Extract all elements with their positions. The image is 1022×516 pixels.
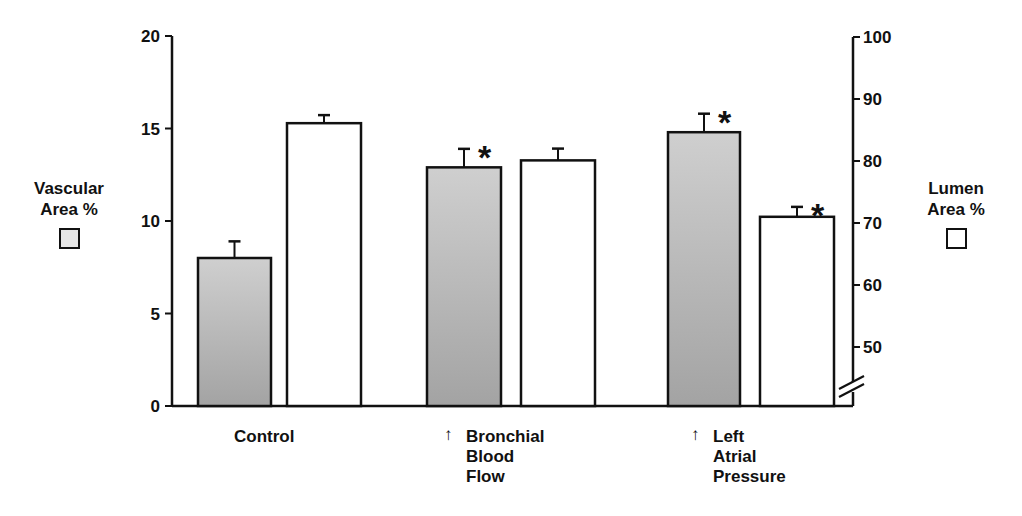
right-axis-title-line1: Lumen bbox=[906, 178, 1006, 199]
right-axis-tick-label: 60 bbox=[863, 276, 882, 295]
category-label-left-atrial-pressure: Left Atrial Pressure bbox=[713, 427, 786, 487]
category-label-line: Atrial bbox=[713, 447, 786, 467]
left-axis-tick-label: 0 bbox=[151, 397, 160, 416]
up-arrow-icon: ↑ bbox=[691, 425, 700, 445]
right-axis-tick-label: 90 bbox=[863, 90, 882, 109]
bars: *** bbox=[198, 103, 834, 406]
category-label-line: Pressure bbox=[713, 467, 786, 487]
left-axis-tick-label: 5 bbox=[151, 305, 160, 324]
legend-swatch-vascular bbox=[59, 228, 80, 249]
category-label-line: Control bbox=[234, 427, 294, 447]
right-axis-tick-label: 100 bbox=[863, 28, 891, 47]
left-axis-tick-label: 10 bbox=[141, 212, 160, 231]
category-label-bronchial-blood-flow: Bronchial Blood Flow bbox=[466, 427, 544, 487]
category-label-line: Bronchial bbox=[466, 427, 544, 447]
right-axis-tick-label: 50 bbox=[863, 338, 882, 357]
right-axis-tick-label: 70 bbox=[863, 214, 882, 233]
bar-vascular-area bbox=[668, 132, 740, 406]
left-axis-title: Vascular Area % bbox=[14, 178, 124, 249]
bar-vascular-area bbox=[427, 167, 501, 406]
category-label-line: Blood bbox=[466, 447, 544, 467]
bar-lumen-area bbox=[521, 160, 595, 406]
significance-asterisk: * bbox=[478, 138, 492, 176]
category-label-line: Left bbox=[713, 427, 786, 447]
category-label-control: Control bbox=[234, 427, 294, 447]
left-axis-title-line1: Vascular bbox=[14, 178, 124, 199]
significance-asterisk: * bbox=[718, 103, 732, 141]
category-label-line: Flow bbox=[466, 467, 544, 487]
up-arrow-icon: ↑ bbox=[444, 425, 453, 445]
left-axis-title-line2: Area % bbox=[14, 199, 124, 220]
right-axis-title-line2: Area % bbox=[906, 199, 1006, 220]
legend-swatch-lumen bbox=[946, 228, 967, 249]
significance-asterisk: * bbox=[811, 196, 825, 234]
right-axis-tick-label: 80 bbox=[863, 152, 882, 171]
right-axis-title: Lumen Area % bbox=[906, 178, 1006, 249]
left-axis-tick-label: 15 bbox=[141, 120, 160, 139]
bar-lumen-area bbox=[287, 123, 361, 406]
bar-lumen-area bbox=[760, 217, 834, 406]
bar-vascular-area bbox=[198, 258, 271, 406]
left-axis-tick-label: 20 bbox=[141, 27, 160, 46]
